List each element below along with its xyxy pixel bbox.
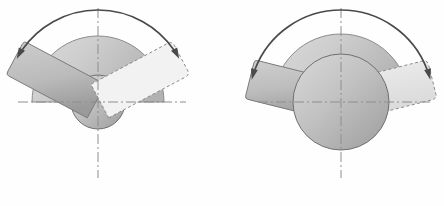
- rotary-actuator-diagram: Rotary actuator swing-angle comparison T…: [0, 0, 444, 206]
- figure-root: Rotary actuator swing-angle comparison T…: [0, 0, 444, 206]
